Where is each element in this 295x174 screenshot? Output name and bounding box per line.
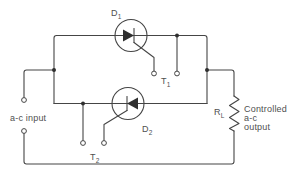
d1-anode-triangle [123,30,134,42]
label-t2: T2 [90,152,100,164]
label-output-line3: output [244,122,271,132]
ac-input-terminal-lower [22,129,27,134]
label-ac-input: a-c input [10,113,47,123]
load-branch-wire [207,70,234,96]
junction-dot [81,102,85,106]
d1-gate-lead [134,43,154,72]
label-d1: D1 [111,8,122,20]
t2-gate-terminal [102,141,107,146]
main-loop-wire [54,36,207,104]
circuit-diagram: D1 T1 D2 T2 RL a-c input Controlled a-c … [0,0,295,174]
ac-input-terminal-upper [22,98,27,103]
t2-cathode-terminal [81,141,86,146]
ac-input-branch-wire [24,70,54,97]
labels: D1 T1 D2 T2 RL a-c input Controlled a-c … [10,8,287,164]
t1-cathode-terminal [175,71,180,76]
junction-dot [175,34,179,38]
junction-dots [52,34,209,106]
junction-dot [205,68,209,72]
d2-anode-triangle [127,98,138,110]
label-d2: D2 [142,124,153,136]
junction-dot [52,68,56,72]
wires [24,36,234,165]
t1-gate-terminal [152,71,157,76]
bottom-return-wire [24,131,234,164]
terminals [22,71,180,145]
schematic-svg: D1 T1 D2 T2 RL a-c input Controlled a-c … [0,0,295,174]
resistor-rl-icon [230,96,240,131]
label-t1: T1 [161,76,171,88]
d2-gate-lead [104,111,127,141]
label-rl: RL [214,107,225,119]
